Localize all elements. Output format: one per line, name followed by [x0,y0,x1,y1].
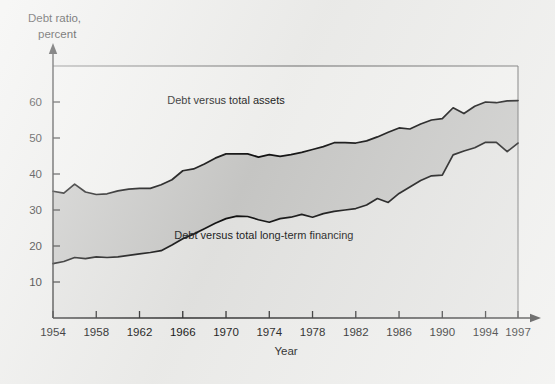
x-tick-label: 1974 [256,326,282,338]
y-tick-label: 40 [29,168,42,180]
x-tick-label: 1958 [83,326,109,338]
debt-ratio-area-chart: 102030405060 195419581962196619701974197… [0,0,555,384]
y-axis-arrowhead [49,43,57,54]
figure-canvas: 102030405060 195419581962196619701974197… [0,0,555,384]
y-tick-label: 50 [29,132,42,144]
annotation-debt-versus-long-term-financing: Debt versus total long-term financing [174,229,353,241]
x-tick-label: 1970 [213,326,239,338]
x-tick-label: 1962 [127,326,153,338]
x-axis-arrowhead [530,314,541,322]
x-tick-label: 1982 [343,326,369,338]
y-axis-tick-labels: 102030405060 [29,96,42,288]
y-tick-label: 10 [29,276,42,288]
y-tick-label: 20 [29,240,42,252]
x-axis-tick-labels: 1954195819621966197019741978198219861990… [40,326,531,338]
y-axis-title-line1: Debt ratio, [28,12,81,24]
x-tick-label: 1954 [40,326,66,338]
x-tick-label: 1966 [170,326,196,338]
x-tick-label: 1994 [473,326,499,338]
x-tick-label: 1997 [505,326,531,338]
y-axis-title-line2: percent [38,28,77,40]
y-tick-label: 30 [29,204,42,216]
x-axis-title: Year [274,345,297,357]
x-tick-label: 1978 [300,326,326,338]
annotation-debt-versus-total-assets: Debt versus total assets [167,94,285,106]
x-tick-label: 1990 [430,326,456,338]
y-tick-label: 60 [29,96,42,108]
x-tick-label: 1986 [386,326,412,338]
